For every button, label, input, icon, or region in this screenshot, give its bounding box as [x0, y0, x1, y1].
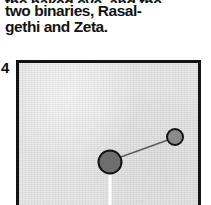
figure-block: 4 [0, 58, 211, 205]
secondary-star [167, 129, 183, 145]
page-root: the naked eye, and the two binaries, Ras… [0, 0, 211, 205]
binary-star-diagram [19, 63, 198, 205]
figure-panel [16, 60, 201, 205]
separation-line [118, 140, 168, 158]
figure-number-label: 4 [1, 60, 9, 75]
caption-line-2: two binaries, Rasal- [0, 3, 211, 19]
figure-caption: the naked eye, and the two binaries, Ras… [0, 0, 211, 35]
primary-star [99, 151, 122, 174]
caption-line-3: gethi and Zeta. [0, 19, 211, 35]
